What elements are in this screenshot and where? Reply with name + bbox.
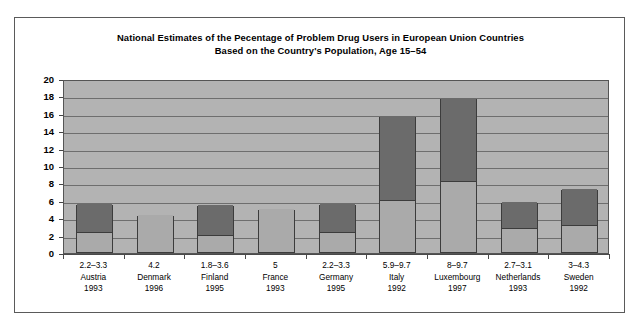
y-axis-tick-label: 8: [20, 179, 54, 189]
bar-segment-low[interactable]: [320, 233, 355, 252]
estimate-range-label: 2.7–3.1: [488, 260, 549, 272]
x-axis-tick-mark: [427, 255, 428, 259]
estimate-range-label: 8–9.7: [427, 260, 488, 272]
bar-segment-low[interactable]: [380, 201, 415, 252]
y-axis-tick-label: 4: [20, 214, 54, 224]
bar-segment-high[interactable]: [502, 202, 537, 229]
x-axis-category-label: 5.9–9.7Italy1992: [366, 260, 427, 295]
chart-title-line-1: National Estimates of the Pecentage of P…: [15, 31, 626, 44]
stacked-bar[interactable]: [379, 117, 416, 253]
bar-segment-low[interactable]: [259, 209, 294, 253]
bar-group[interactable]: [319, 79, 356, 253]
bar-group[interactable]: [76, 79, 113, 253]
stacked-bar[interactable]: [440, 99, 477, 253]
x-axis-category-label: 1.8–3.6Finland1995: [184, 260, 245, 295]
bar-segment-high[interactable]: [441, 98, 476, 182]
x-axis-tick-mark: [245, 255, 246, 259]
chart-title-line-2: Based on the Country's Population, Age 1…: [15, 44, 626, 57]
year-label: 1992: [548, 283, 609, 295]
bar-group[interactable]: [440, 79, 477, 253]
x-axis-category-label: 3–4.3Sweden1992: [548, 260, 609, 295]
estimate-range-label: 4.2: [124, 260, 185, 272]
bar-segment-high[interactable]: [320, 204, 355, 233]
country-label: Netherlands: [488, 272, 549, 284]
country-label: Luxembourg: [427, 272, 488, 284]
y-axis: 02468101214161820: [15, 80, 63, 256]
chart-title: National Estimates of the Pecentage of P…: [15, 31, 626, 57]
bar-segment-low[interactable]: [502, 229, 537, 252]
y-axis-tick-label: 20: [20, 75, 54, 85]
x-axis-category-label: 8–9.7Luxembourg1997: [427, 260, 488, 295]
year-label: 1997: [427, 283, 488, 295]
estimate-range-label: 1.8–3.6: [184, 260, 245, 272]
y-axis-tick-label: 0: [20, 249, 54, 259]
bar-segment-high[interactable]: [198, 205, 233, 236]
y-axis-tick-label: 10: [20, 162, 54, 172]
bar-segment-high[interactable]: [77, 204, 112, 233]
bar-segment-low[interactable]: [77, 233, 112, 252]
bar-group[interactable]: [501, 79, 538, 253]
bar-segment-high[interactable]: [562, 189, 597, 226]
bar-group[interactable]: [561, 79, 598, 253]
bar-group[interactable]: [258, 79, 295, 253]
x-axis-tick-mark: [488, 255, 489, 259]
x-axis-category-label: 2.2–3.3Germany1995: [306, 260, 367, 295]
bar-segment-low[interactable]: [198, 236, 233, 252]
x-axis-line: [63, 254, 610, 255]
bar-group[interactable]: [137, 79, 174, 253]
country-label: Finland: [184, 272, 245, 284]
estimate-range-label: 5.9–9.7: [366, 260, 427, 272]
estimate-range-label: 2.2–3.3: [63, 260, 124, 272]
stacked-bar[interactable]: [137, 216, 174, 253]
x-axis-category-label: 4.2Denmark1996: [124, 260, 185, 295]
x-axis-tick-mark: [306, 255, 307, 259]
x-axis-tick-mark: [609, 255, 610, 259]
y-axis-tick-label: 2: [20, 232, 54, 242]
year-label: 1996: [124, 283, 185, 295]
stacked-bar[interactable]: [319, 205, 356, 253]
country-label: Denmark: [124, 272, 185, 284]
year-label: 1992: [366, 283, 427, 295]
x-axis-tick-mark: [63, 255, 64, 259]
x-axis-tick-mark: [184, 255, 185, 259]
x-axis-category-label: 2.2–3.3Austria1993: [63, 260, 124, 295]
estimate-range-label: 2.2–3.3: [306, 260, 367, 272]
country-label: Austria: [63, 272, 124, 284]
bar-group[interactable]: [379, 79, 416, 253]
stacked-bar[interactable]: [501, 203, 538, 253]
year-label: 1993: [63, 283, 124, 295]
bar-segment-low[interactable]: [562, 226, 597, 252]
country-label: France: [245, 272, 306, 284]
bar-segment-high[interactable]: [380, 116, 415, 200]
x-axis-category-label: 2.7–3.1Netherlands1993: [488, 260, 549, 295]
estimate-range-label: 3–4.3: [548, 260, 609, 272]
chart-figure: National Estimates of the Pecentage of P…: [0, 0, 639, 330]
y-axis-tick-label: 18: [20, 92, 54, 102]
stacked-bar[interactable]: [76, 205, 113, 253]
stacked-bar[interactable]: [258, 210, 295, 254]
stacked-bar[interactable]: [561, 190, 598, 254]
bar-group[interactable]: [197, 79, 234, 253]
country-label: Italy: [366, 272, 427, 284]
year-label: 1995: [306, 283, 367, 295]
year-label: 1995: [184, 283, 245, 295]
y-axis-tick-label: 14: [20, 127, 54, 137]
x-axis-tick-mark: [366, 255, 367, 259]
chart-frame: National Estimates of the Pecentage of P…: [14, 17, 625, 313]
y-axis-tick-label: 12: [20, 145, 54, 155]
y-axis-tick-label: 6: [20, 197, 54, 207]
country-label: Sweden: [548, 272, 609, 284]
stacked-bar[interactable]: [197, 206, 234, 253]
y-axis-tick-label: 16: [20, 110, 54, 120]
estimate-range-label: 5: [245, 260, 306, 272]
year-label: 1993: [245, 283, 306, 295]
plot-area: [63, 80, 609, 254]
x-axis-tick-mark: [548, 255, 549, 259]
x-axis-category-label: 5France1993: [245, 260, 306, 295]
country-label: Germany: [306, 272, 367, 284]
year-label: 1993: [488, 283, 549, 295]
bar-segment-low[interactable]: [138, 215, 173, 252]
bar-segment-low[interactable]: [441, 182, 476, 252]
x-axis-tick-mark: [124, 255, 125, 259]
